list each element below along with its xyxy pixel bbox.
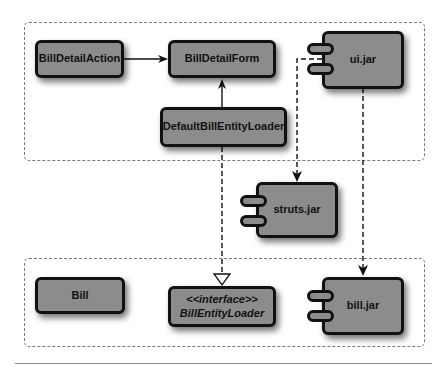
edge-loader-to-form [218,79,226,107]
node-default-bill-entity-loader[interactable]: DefaultBillEntityLoader [160,107,287,147]
component-port-icon [307,310,334,322]
component-port-icon [240,195,267,207]
node-label: Bill [71,289,88,303]
node-bill-entity-loader-interface[interactable]: <<interface>> BillEntityLoader [168,286,276,327]
component-body: struts.jar [256,182,338,238]
component-body: bill.jar [322,277,404,335]
node-bill-detail-form[interactable]: BillDetailForm [168,40,276,78]
node-bill-detail-action[interactable]: BillDetailAction [35,40,124,78]
node-label: BillDetailForm [185,52,260,66]
node-label: BillDetailAction [39,52,120,66]
node-label: BillEntityLoader [180,307,264,321]
bottom-divider [15,363,432,364]
node-bill[interactable]: Bill [35,277,125,314]
component-port-icon [240,215,267,227]
edge-uijar-to-billjar [358,88,368,276]
component-body: ui.jar [322,31,404,89]
node-label: bill.jar [347,299,379,313]
node-label: struts.jar [273,203,320,217]
edge-action-to-form [124,55,168,63]
component-port-icon [307,290,334,302]
edge-loader-realizes-interface [214,147,230,285]
stereotype-label: <<interface>> [186,293,258,307]
component-port-icon [307,43,334,55]
edge-uijar-to-strutsjar [292,59,322,182]
node-label: DefaultBillEntityLoader [163,120,285,134]
node-label: ui.jar [350,53,376,67]
component-port-icon [307,63,334,75]
